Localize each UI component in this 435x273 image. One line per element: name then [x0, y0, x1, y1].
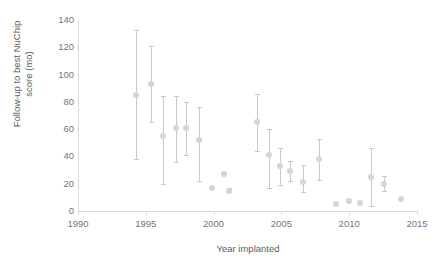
- error-bar-cap: [197, 107, 202, 108]
- error-bar-cap: [301, 192, 306, 193]
- error-bar-cap: [278, 185, 283, 186]
- error-bar-cap: [134, 30, 139, 31]
- x-tick-label: 1995: [126, 218, 166, 229]
- error-bar-cap: [382, 191, 387, 192]
- x-tick-mark: [349, 211, 350, 215]
- y-tick-label: 40: [44, 151, 74, 161]
- error-bar-cap: [288, 161, 293, 162]
- data-point: [381, 181, 387, 187]
- data-point: [160, 133, 166, 139]
- data-point: [173, 125, 179, 131]
- x-tick-mark: [78, 211, 79, 215]
- y-tick-label: 120: [44, 42, 74, 52]
- error-bar-cap: [161, 184, 166, 185]
- y-axis-title: Follow-up to best NuChip score (mo): [11, 9, 35, 139]
- x-tick-label: 2015: [397, 218, 435, 229]
- x-tick-mark: [417, 211, 418, 215]
- y-tick-label: 20: [44, 179, 74, 189]
- data-point: [148, 81, 154, 87]
- error-bar: [269, 129, 270, 188]
- error-bar-cap: [267, 129, 272, 130]
- data-point: [357, 200, 363, 206]
- x-tick-label: 2005: [261, 218, 301, 229]
- data-point: [133, 92, 139, 98]
- data-point: [316, 156, 322, 162]
- data-point: [398, 196, 404, 202]
- y-tick-label: 60: [44, 124, 74, 134]
- data-point: [346, 198, 352, 204]
- error-bar-cap: [382, 176, 387, 177]
- error-bar-cap: [278, 148, 283, 149]
- data-point: [277, 163, 283, 169]
- error-bar-cap: [149, 46, 154, 47]
- data-point: [209, 185, 215, 191]
- error-bar-cap: [161, 96, 166, 97]
- x-axis-title: Year implanted: [78, 243, 418, 254]
- data-point: [226, 188, 232, 194]
- error-bar: [163, 96, 164, 183]
- data-point: [221, 171, 227, 177]
- x-tick-label: 2000: [194, 218, 234, 229]
- error-bar-cap: [184, 155, 189, 156]
- x-axis-line: [78, 211, 418, 212]
- error-bar-cap: [369, 206, 374, 207]
- error-bar-cap: [317, 139, 322, 140]
- error-bar-cap: [174, 162, 179, 163]
- error-bar-cap: [255, 94, 260, 95]
- error-bar: [199, 107, 200, 181]
- error-bar-cap: [184, 102, 189, 103]
- error-bar-cap: [174, 96, 179, 97]
- data-point: [300, 179, 306, 185]
- scatter-chart: Follow-up to best NuChip score (mo) 1401…: [0, 0, 435, 273]
- error-bar-cap: [267, 188, 272, 189]
- y-tick-label: 80: [44, 97, 74, 107]
- x-tick-mark: [281, 211, 282, 215]
- data-point: [287, 168, 293, 174]
- error-bar-cap: [317, 180, 322, 181]
- y-tick-label: 0: [44, 206, 74, 216]
- error-bar-cap: [288, 181, 293, 182]
- data-point: [333, 201, 339, 207]
- data-point: [183, 125, 189, 131]
- x-tick-label: 1990: [58, 218, 98, 229]
- error-bar: [303, 165, 304, 192]
- data-point: [266, 152, 272, 158]
- data-point: [254, 119, 260, 125]
- y-tick-label: 100: [44, 70, 74, 80]
- error-bar-cap: [255, 151, 260, 152]
- x-tick-mark: [146, 211, 147, 215]
- error-bar-cap: [197, 181, 202, 182]
- data-point: [368, 174, 374, 180]
- error-bar-cap: [134, 159, 139, 160]
- y-tick-label: 140: [44, 15, 74, 25]
- plot-area: [78, 20, 428, 211]
- error-bar-cap: [149, 122, 154, 123]
- x-tick-label: 2010: [329, 218, 369, 229]
- data-point: [196, 137, 202, 143]
- error-bar-cap: [301, 165, 306, 166]
- x-tick-mark: [214, 211, 215, 215]
- y-axis-tick-labels: 140120100806040200: [40, 0, 74, 273]
- error-bar-cap: [369, 148, 374, 149]
